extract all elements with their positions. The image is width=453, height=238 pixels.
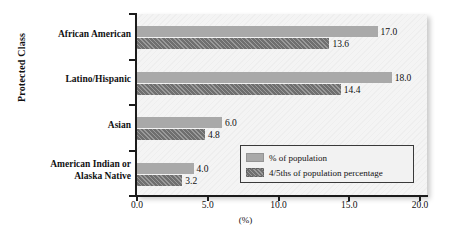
legend-swatch-icon	[246, 168, 264, 177]
legend-item-pct-population: % of population	[246, 150, 408, 165]
bar-asian-pct-population	[137, 117, 222, 128]
legend-item-four-fifths: 4/5ths of population percentage	[246, 165, 408, 180]
x-axis-tick-label: 0.0	[117, 200, 157, 210]
legend-label: 4/5ths of population percentage	[269, 168, 383, 178]
bar-value-label: 14.4	[344, 85, 361, 96]
bar-american-indian-four-fifths	[137, 175, 182, 186]
bar-latino-hispanic-pct-population	[137, 72, 392, 83]
bar-value-label: 3.2	[185, 176, 197, 187]
y-axis-tick	[129, 195, 136, 197]
chart-legend: % of population 4/5ths of population per…	[240, 145, 414, 183]
x-axis-tick-label: 15.0	[329, 200, 369, 210]
bar-asian-four-fifths	[137, 129, 205, 140]
category-label-asian: Asian	[0, 120, 131, 132]
category-label-line: American Indian or	[0, 159, 131, 171]
category-label-african-american: African American	[0, 29, 131, 41]
x-axis-tick-label: 20.0	[400, 200, 440, 210]
category-label-line: Alaska Native	[0, 171, 131, 183]
y-axis-tick	[129, 13, 136, 15]
x-axis-title-text: (%)	[239, 215, 253, 225]
bar-african-american-pct-population	[137, 26, 378, 37]
bar-value-label: 17.0	[381, 27, 398, 38]
x-axis-tick-label: 10.0	[259, 200, 299, 210]
bar-value-label: 18.0	[395, 73, 412, 84]
x-axis-title: (%)	[0, 215, 453, 225]
category-label-line: African American	[0, 29, 131, 41]
category-label-american-indian-alaska-native: American Indian or Alaska Native	[0, 159, 131, 182]
x-axis-tick-label: 5.0	[188, 200, 228, 210]
bar-american-indian-pct-population	[137, 163, 194, 174]
x-axis-line	[135, 195, 428, 197]
bar-value-label: 6.0	[225, 118, 237, 129]
bar-chart: Protected Class African American Latino/…	[0, 0, 453, 238]
bar-value-label: 13.6	[332, 39, 349, 50]
y-axis-tick	[129, 59, 136, 61]
legend-label: % of population	[269, 153, 327, 163]
category-label-line: Asian	[0, 120, 131, 132]
bar-african-american-four-fifths	[137, 38, 329, 49]
bar-value-label: 4.8	[208, 130, 220, 141]
category-label-latino-hispanic: Latino/Hispanic	[0, 74, 131, 86]
bar-latino-hispanic-four-fifths	[137, 84, 341, 95]
y-axis-title: Protected Class	[16, 3, 27, 133]
bar-value-label: 4.0	[197, 164, 209, 175]
y-axis-tick	[129, 104, 136, 106]
category-label-line: Latino/Hispanic	[0, 74, 131, 86]
legend-swatch-icon	[246, 153, 264, 162]
y-axis-tick	[129, 150, 136, 152]
